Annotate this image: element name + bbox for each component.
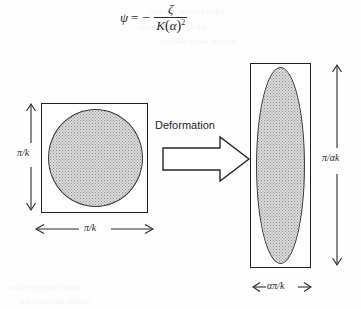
- equation-denominator: K(α)2: [154, 18, 187, 34]
- left-circle-shape: [48, 109, 143, 207]
- figure-canvas: and the second order deformation of the …: [0, 0, 361, 309]
- right-width-label: απ/k: [267, 280, 284, 291]
- equation-sign: −: [141, 10, 151, 26]
- equation: ψ = − ζ K(α)2: [120, 2, 187, 34]
- bleed-text-line4: under applied strain: [10, 282, 81, 292]
- deformation-label: Deformation: [155, 119, 215, 131]
- deformation-block-arrow-icon: [162, 136, 250, 182]
- left-height-arrow: [22, 101, 40, 215]
- denominator-base: K: [156, 18, 165, 33]
- bleed-text-line5: the resulting ellipse: [20, 296, 90, 306]
- right-height-arrow: [328, 62, 346, 270]
- equation-fraction: ζ K(α)2: [154, 2, 187, 34]
- equation-numerator: ζ: [162, 2, 179, 17]
- right-ellipse-shape: [256, 67, 305, 264]
- left-height-label: π/k: [17, 147, 29, 158]
- right-height-label: π/αk: [322, 152, 339, 163]
- denominator-exponent: 2: [181, 18, 185, 27]
- left-width-label: π/k: [84, 222, 96, 233]
- equation-relation: =: [131, 10, 138, 26]
- equation-lhs: ψ: [120, 10, 128, 26]
- bleed-text-line3: circular cross section: [160, 36, 236, 46]
- denominator-arg: α: [170, 18, 177, 33]
